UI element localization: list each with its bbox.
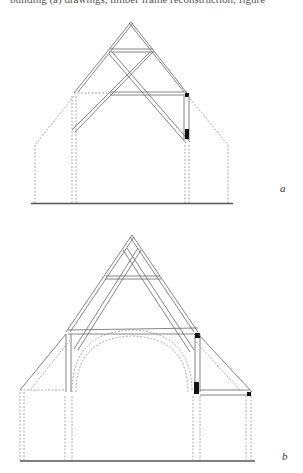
figure-label-b: b (282, 450, 288, 462)
figure-drawings (0, 0, 303, 473)
figure-label-a: a (280, 182, 286, 194)
post-section-b2 (194, 382, 199, 394)
post-section-a2 (185, 129, 189, 139)
figure-b-drawing (20, 235, 255, 461)
post-section-b3 (247, 392, 251, 396)
figure-a-drawing (31, 22, 233, 204)
